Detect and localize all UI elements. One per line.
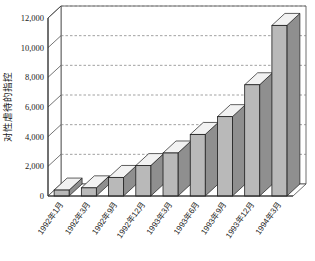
bar	[272, 13, 300, 196]
x-axis-tick-label: 1993年3月	[144, 199, 174, 236]
y-axis-ticks: 12,00010,0008,0006,0004,0002,0000	[21, 13, 44, 201]
y-axis-tick-label: 4,000	[25, 132, 44, 142]
y-axis-title: 对性虐待的指控	[2, 72, 13, 142]
x-axis-tick-label: 1994年3月	[253, 199, 283, 236]
bar	[217, 105, 245, 196]
x-axis-tick-label: 1992年3月	[62, 199, 92, 236]
bar-side-face	[205, 122, 218, 196]
bar-front-face	[190, 134, 205, 196]
bar-front-face	[81, 188, 96, 196]
bar-side-face	[232, 105, 245, 196]
y-axis-tick-label: 0	[40, 191, 44, 201]
bar-front-face	[109, 177, 124, 196]
x-axis-tick-label: 1992年1月	[35, 199, 65, 236]
bar-side-face	[287, 13, 300, 196]
bar-chart: 12,00010,0008,0006,0004,0002,0000 1992年1…	[0, 0, 315, 261]
y-axis-tick-label: 8,000	[25, 72, 44, 82]
chart-canvas: 12,00010,0008,0006,0004,0002,0000 1992年1…	[0, 0, 315, 261]
y-axis-tick-label: 10,000	[21, 43, 44, 53]
y-axis-tick-label: 12,000	[21, 13, 44, 23]
x-axis-tick-label: 1992年9月	[90, 199, 120, 236]
bar	[245, 73, 273, 196]
bar-front-face	[272, 25, 287, 196]
bar-front-face	[136, 166, 151, 196]
y-axis-tick-label: 2,000	[25, 161, 44, 171]
bar-front-face	[217, 117, 232, 196]
x-axis-tick-label: 1993年9月	[198, 199, 228, 236]
bar-side-face	[260, 73, 273, 196]
bar-front-face	[54, 190, 69, 196]
y-axis-tick-label: 6,000	[25, 102, 44, 112]
bar	[190, 122, 218, 196]
bar	[163, 141, 191, 196]
bar-front-face	[163, 153, 178, 196]
bar-front-face	[245, 85, 260, 196]
x-axis-category-labels: 1992年1月1992年3月1992年9月1992年12月1993年3月1993…	[35, 199, 283, 240]
x-axis-tick-label: 1993年6月	[171, 199, 201, 236]
